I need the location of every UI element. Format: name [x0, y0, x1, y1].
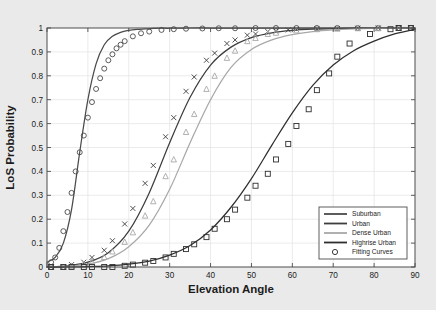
- tick-label-y: 0.2: [32, 215, 44, 224]
- y-axis-label: LoS Probability: [4, 105, 16, 190]
- tick-label-x: 60: [288, 271, 298, 280]
- tick-label-y: 0.8: [32, 72, 44, 81]
- tick-label-y: 0.9: [32, 48, 44, 57]
- tick-label-y: 0.6: [32, 120, 44, 129]
- legend-entry-label: Highrise Urban: [352, 239, 396, 247]
- tick-label-x: 0: [45, 271, 50, 280]
- tick-label-y: 0.3: [32, 191, 44, 200]
- tick-label-x: 50: [247, 271, 257, 280]
- los-probability-chart: 010203040506070809000.10.20.30.40.50.60.…: [0, 0, 436, 310]
- tick-label-y: 1: [38, 24, 43, 33]
- legend-entry-label: Urban: [352, 220, 370, 227]
- x-axis-label: Elevation Angle: [188, 283, 274, 295]
- legend-entry-label: Fitting Curves: [352, 248, 393, 256]
- tick-label-y: 0.5: [32, 144, 44, 153]
- tick-label-x: 80: [370, 271, 380, 280]
- tick-label-x: 40: [206, 271, 216, 280]
- tick-label-y: 0: [38, 263, 43, 272]
- tick-label-x: 70: [329, 271, 339, 280]
- tick-label-x: 10: [83, 271, 93, 280]
- legend-entry-label: Suburban: [352, 210, 381, 217]
- tick-label-x: 30: [165, 271, 175, 280]
- legend-entry-label: Dense Urban: [352, 229, 391, 236]
- legend: SuburbanUrbanDense UrbanHighrise UrbanFi…: [319, 207, 407, 259]
- tick-label-x: 90: [410, 271, 420, 280]
- chart-figure: 010203040506070809000.10.20.30.40.50.60.…: [0, 0, 436, 310]
- tick-label-x: 20: [124, 271, 134, 280]
- tick-label-y: 0.1: [32, 239, 44, 248]
- tick-label-y: 0.4: [32, 167, 44, 176]
- tick-label-y: 0.7: [32, 96, 44, 105]
